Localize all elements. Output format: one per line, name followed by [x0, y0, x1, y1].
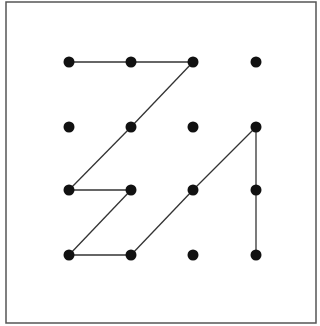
path-segment: [131, 62, 193, 127]
grid-dot: [64, 250, 75, 261]
grid-dot: [251, 57, 262, 68]
grid-dot: [251, 122, 262, 133]
path-segment: [69, 127, 131, 190]
path-segments: [69, 62, 256, 255]
grid-dot: [126, 122, 137, 133]
grid-dot: [251, 185, 262, 196]
path-segment: [193, 127, 256, 190]
path-segment: [69, 190, 131, 255]
grid-dot: [126, 185, 137, 196]
grid-dot: [188, 57, 199, 68]
grid-dot: [64, 122, 75, 133]
grid-dot: [64, 57, 75, 68]
grid-dot: [188, 250, 199, 261]
grid-dot: [188, 122, 199, 133]
grid-dot: [188, 185, 199, 196]
grid-dot: [64, 185, 75, 196]
grid-dot: [126, 250, 137, 261]
grid-dot: [251, 250, 262, 261]
grid-dot: [126, 57, 137, 68]
dot-grid-diagram: [0, 0, 320, 326]
path-segment: [131, 190, 193, 255]
diagram-frame: [6, 2, 316, 323]
